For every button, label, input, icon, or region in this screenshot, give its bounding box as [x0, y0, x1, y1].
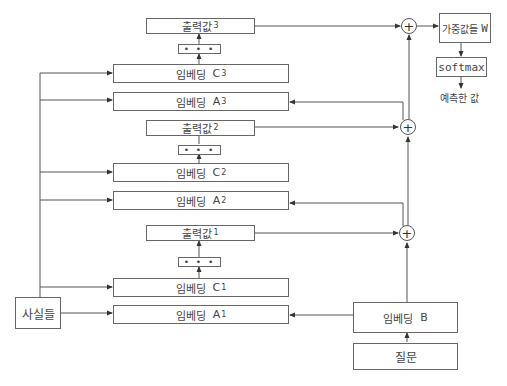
embedding-c1-var: C [213, 281, 221, 294]
weights-label: 가중값들 [442, 21, 478, 36]
embedding-b-label: 임베딩 [383, 310, 413, 326]
prediction-label: 예측한 값 [440, 90, 479, 105]
plus-icon: + [404, 20, 415, 33]
sum-node-2: + [400, 119, 416, 135]
weights-box: 가중값들 W [439, 13, 491, 43]
embedding-c2-var: C [213, 166, 221, 179]
sum-node-3: + [401, 18, 417, 34]
output-3-box: 출력값3 [146, 18, 255, 34]
embedding-a3-box: 임베딩 A3 [113, 92, 289, 111]
output-1-box: 출력값1 [146, 225, 255, 241]
embedding-c1-box: 임베딩 C1 [113, 278, 289, 297]
embedding-c2-label: 임베딩 [176, 165, 206, 181]
embedding-c3-box: 임베딩 C3 [113, 64, 289, 83]
embedding-b-box: 임베딩 B [353, 302, 458, 333]
sum-node-1: + [399, 225, 415, 241]
softmax-label: softmax [438, 61, 484, 74]
output-2-label: 출력값 [182, 120, 212, 136]
plus-icon: + [402, 227, 413, 240]
embedding-a2-var: A [213, 194, 221, 207]
output-2-box: 출력값2 [146, 120, 255, 136]
embedding-a2-box: 임베딩 A2 [113, 191, 289, 210]
embedding-a1-label: 임베딩 [176, 307, 206, 323]
embedding-a3-label: 임베딩 [176, 94, 206, 110]
weights-var: W [481, 22, 488, 35]
hops-1-box: • • • [178, 257, 221, 267]
ellipsis-2: • • • [184, 146, 216, 155]
embedding-a1-box: 임베딩 A1 [113, 305, 289, 324]
question-label: 질문 [395, 348, 417, 365]
embedding-a1-var: A [213, 308, 221, 321]
ellipsis-1: • • • [184, 258, 216, 267]
hops-2-box: • • • [178, 145, 221, 155]
facts-box: 사실들 [15, 297, 61, 329]
embedding-b-var: B [420, 311, 428, 324]
output-1-label: 출력값 [182, 225, 212, 241]
question-box: 질문 [353, 343, 458, 370]
embedding-c2-box: 임베딩 C2 [113, 163, 289, 182]
embedding-a3-var: A [213, 95, 221, 108]
embedding-c3-var: C [213, 67, 221, 80]
ellipsis-3: • • • [184, 45, 216, 54]
plus-icon: + [403, 121, 414, 134]
facts-label: 사실들 [22, 305, 55, 322]
softmax-box: softmax [436, 57, 487, 77]
embedding-a2-label: 임베딩 [176, 193, 206, 209]
embedding-c1-label: 임베딩 [176, 280, 206, 296]
output-3-label: 출력값 [182, 18, 212, 34]
embedding-c3-label: 임베딩 [176, 66, 206, 82]
hops-3-box: • • • [178, 44, 221, 54]
